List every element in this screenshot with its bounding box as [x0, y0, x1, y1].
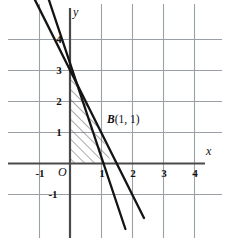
- x-tick-label-4: 4: [186, 168, 204, 179]
- point-label-b: B(1, 1): [107, 114, 140, 126]
- y-axis-label: y: [73, 6, 78, 18]
- origin-label: O: [58, 166, 67, 178]
- y-tick-label--1: -1: [44, 189, 62, 200]
- y-tick-label-3: 3: [52, 65, 66, 76]
- y-tick-label-4: 4: [52, 34, 66, 45]
- coordinate-plane-figure: x y O -1 1 2 3 4 -1 1 2 3 4 B(1, 1): [0, 0, 229, 242]
- x-tick-label-3: 3: [155, 168, 173, 179]
- x-axis-label: x: [206, 145, 211, 157]
- x-tick-label-2: 2: [124, 168, 142, 179]
- y-tick-label-1: 1: [52, 127, 66, 138]
- x-tick-label-1: 1: [93, 168, 111, 179]
- point-label-b-name: B: [107, 113, 115, 125]
- point-label-b-coords: (1, 1): [115, 113, 140, 125]
- y-tick-label-2: 2: [52, 96, 66, 107]
- x-tick-label--1: -1: [31, 168, 49, 179]
